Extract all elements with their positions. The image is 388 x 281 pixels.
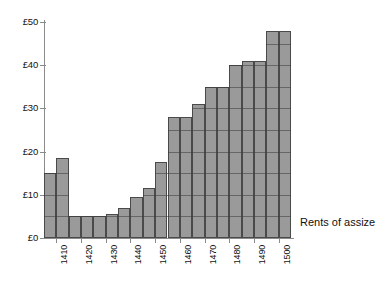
bar: [69, 216, 81, 238]
bar: [242, 61, 254, 238]
bar: [130, 197, 142, 238]
bars-layer: [0, 0, 388, 281]
bar: [180, 117, 192, 238]
bar: [93, 216, 105, 238]
bar: [118, 208, 130, 238]
bar: [279, 31, 291, 238]
bar: [217, 87, 229, 238]
bar: [106, 214, 118, 238]
bar: [192, 104, 204, 238]
bar: [143, 188, 155, 238]
rents-of-assize-histogram: £0£10£20£30£40£50 1410142014301440145014…: [0, 0, 388, 281]
bar: [254, 61, 266, 238]
bar: [168, 117, 180, 238]
series-label-rents-of-assize: Rents of assize: [300, 216, 375, 228]
bar: [229, 65, 241, 238]
bar: [56, 158, 68, 238]
bar: [81, 216, 93, 238]
bar: [266, 31, 278, 238]
bar: [44, 173, 56, 238]
bar: [205, 87, 217, 238]
bar: [155, 162, 167, 238]
